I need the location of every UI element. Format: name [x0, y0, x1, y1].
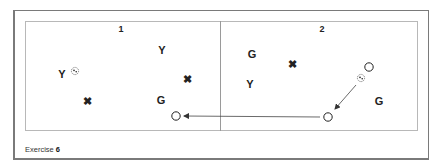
run-arrow: [184, 116, 320, 117]
exercise-caption: Exercise 6: [25, 145, 60, 154]
diagram-overlay: [0, 0, 445, 165]
caption-prefix: Exercise: [25, 145, 54, 154]
cone-icon: [324, 113, 332, 121]
caption-number: 6: [56, 145, 60, 154]
cone-icon: [365, 63, 373, 71]
cone-icon: [172, 112, 180, 120]
ball-icon: [71, 67, 78, 74]
ball-icon: [357, 74, 364, 81]
pass-arrow: [335, 85, 356, 109]
